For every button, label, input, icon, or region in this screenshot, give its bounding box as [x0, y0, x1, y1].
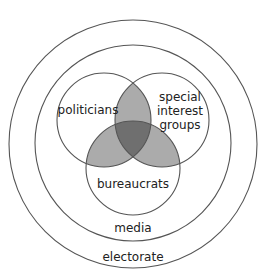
political-actors-diagram: politicians special interest groups bure… — [0, 0, 268, 279]
electorate-label: electorate — [102, 250, 163, 264]
bureaucrats-label: bureaucrats — [97, 177, 169, 191]
media-label: media — [114, 221, 151, 235]
special-interest-groups-label-line2: interest — [157, 104, 203, 118]
special-interest-groups-label-line1: special — [159, 90, 201, 104]
special-interest-groups-label-line3: groups — [159, 118, 200, 132]
politicians-label: politicians — [58, 103, 119, 117]
